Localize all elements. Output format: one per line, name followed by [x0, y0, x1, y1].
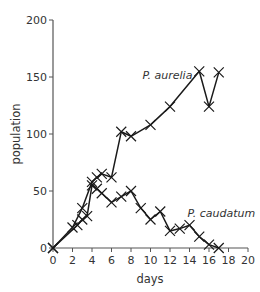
x-tick-label: 18 [222, 254, 236, 267]
data-point-x-marker [146, 120, 156, 130]
data-point-x-marker [77, 215, 87, 225]
data-point-x-marker [116, 192, 126, 202]
data-point-x-marker [107, 197, 117, 207]
data-point-x-marker [204, 102, 214, 112]
data-point-x-marker [126, 186, 136, 196]
data-point-x-marker [185, 220, 195, 230]
y-tick-label: 100 [26, 128, 47, 141]
y-tick-label: 150 [26, 71, 47, 84]
data-point-x-marker [97, 169, 107, 179]
x-tick-label: 10 [144, 254, 158, 267]
data-point-x-marker [97, 188, 107, 198]
x-tick-label: 6 [108, 254, 115, 267]
x-tick-label: 12 [163, 254, 177, 267]
series-label: P. aurelia [142, 69, 192, 82]
y-tick-label: 0 [40, 242, 47, 255]
x-tick-label: 16 [202, 254, 216, 267]
x-tick-label: 8 [128, 254, 135, 267]
data-point-x-marker [136, 203, 146, 213]
data-point-x-marker [126, 131, 136, 141]
data-point-x-marker [214, 67, 224, 77]
data-point-x-marker [146, 215, 156, 225]
data-point-x-marker [194, 232, 204, 242]
data-point-x-marker [165, 102, 175, 112]
series-p-caudatum: P. caudatum [48, 180, 255, 253]
x-axis-label: days [136, 272, 163, 286]
data-point-x-marker [165, 226, 175, 236]
data-point-x-marker [194, 66, 204, 76]
x-tick-label: 20 [241, 254, 255, 267]
y-tick-label: 200 [26, 14, 47, 27]
x-tick-label: 14 [183, 254, 197, 267]
x-tick-label: 4 [89, 254, 96, 267]
data-point-x-marker [155, 207, 165, 217]
x-tick-label: 2 [69, 254, 76, 267]
series-layer: P. aureliaP. caudatum [48, 66, 255, 253]
y-tick-label: 50 [33, 185, 47, 198]
axes: 05010015020002468101214161820 [26, 14, 255, 267]
data-point-x-marker [175, 224, 185, 234]
series-label: P. caudatum [188, 207, 256, 220]
population-chart: 05010015020002468101214161820 P. aurelia… [0, 0, 260, 292]
y-axis-label: population [9, 103, 23, 164]
x-tick-label: 0 [50, 254, 57, 267]
series-p-aurelia: P. aurelia [48, 66, 224, 253]
